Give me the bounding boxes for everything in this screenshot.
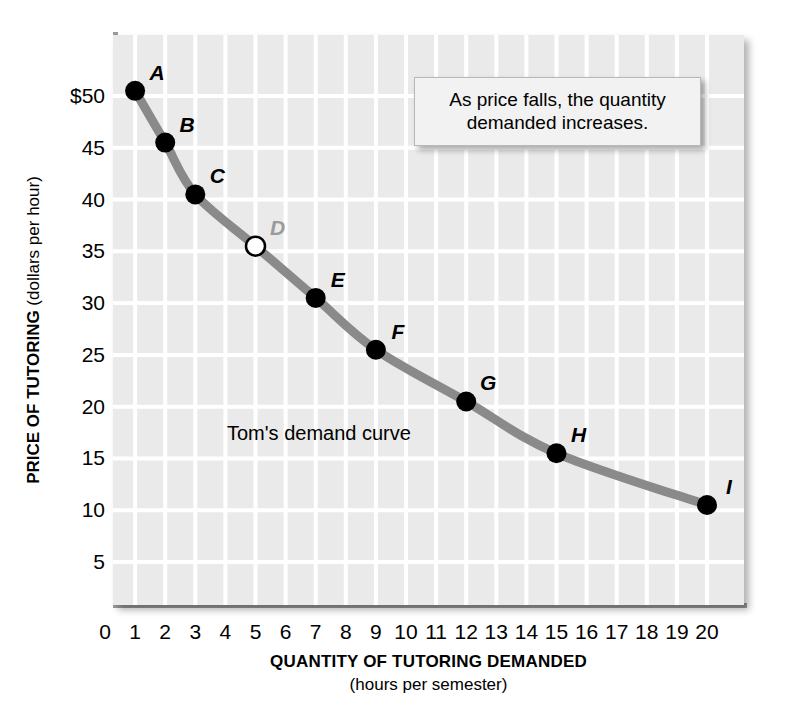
x-tick-19: 19: [665, 620, 688, 644]
x-tick-18: 18: [635, 620, 658, 644]
x-tick-15: 15: [545, 620, 568, 644]
y-axis-title: PRICE OF TUTORING (dollars per hour): [24, 100, 44, 560]
data-point-label-e: E: [331, 268, 345, 292]
x-axis-title-group: QUANTITY OF TUTORING DEMANDED (hours per…: [113, 652, 744, 695]
x-tick-0: 0: [99, 620, 111, 644]
data-point-label-c: C: [210, 164, 225, 188]
y-tick-35: 35: [45, 239, 105, 263]
x-axis-tick-labels: 01234567891011121314151617181920: [113, 620, 744, 648]
x-tick-16: 16: [575, 620, 598, 644]
y-tick-10: 10: [45, 498, 105, 522]
y-axis-title-units: (dollars per hour): [24, 176, 43, 305]
x-tick-17: 17: [605, 620, 628, 644]
data-point-label-b: B: [180, 113, 195, 137]
data-point-label-i: I: [726, 475, 732, 499]
x-tick-1: 1: [129, 620, 141, 644]
y-tick-5: 5: [45, 550, 105, 574]
data-point-label-h: H: [571, 423, 586, 447]
x-tick-13: 13: [485, 620, 508, 644]
demand-curve-figure: ABCDEFGHI $5045403530252015105 012345678…: [0, 0, 804, 719]
x-tick-6: 6: [280, 620, 292, 644]
x-tick-11: 11: [425, 620, 447, 644]
y-axis-tick-labels: $5045403530252015105: [43, 35, 105, 605]
x-tick-4: 4: [220, 620, 232, 644]
x-tick-20: 20: [695, 620, 718, 644]
x-tick-14: 14: [515, 620, 538, 644]
y-tick-15: 15: [45, 446, 105, 470]
x-tick-7: 7: [310, 620, 322, 644]
y-tick-50: $50: [45, 84, 105, 108]
x-axis-title: QUANTITY OF TUTORING DEMANDED: [113, 652, 744, 672]
data-point-label-d: D: [270, 216, 285, 240]
curve-name-label: Tom's demand curve: [227, 422, 411, 445]
x-tick-8: 8: [340, 620, 352, 644]
y-tick-45: 45: [45, 136, 105, 160]
data-point-label-g: G: [480, 371, 496, 395]
y-axis-title-main: PRICE OF TUTORING: [24, 310, 43, 483]
x-axis-title-units: (hours per semester): [113, 675, 744, 695]
x-tick-5: 5: [250, 620, 262, 644]
y-tick-25: 25: [45, 343, 105, 367]
y-tick-30: 30: [45, 291, 105, 315]
x-tick-3: 3: [189, 620, 201, 644]
y-tick-20: 20: [45, 395, 105, 419]
x-tick-2: 2: [159, 620, 171, 644]
annotation-callout: As price falls, the quantity demanded in…: [414, 77, 701, 146]
x-tick-10: 10: [394, 620, 417, 644]
y-tick-40: 40: [45, 188, 105, 212]
x-tick-9: 9: [370, 620, 382, 644]
data-point-label-a: A: [150, 61, 165, 85]
y-axis-title-sub: [24, 306, 43, 311]
data-point-label-f: F: [391, 320, 404, 344]
x-tick-12: 12: [455, 620, 478, 644]
